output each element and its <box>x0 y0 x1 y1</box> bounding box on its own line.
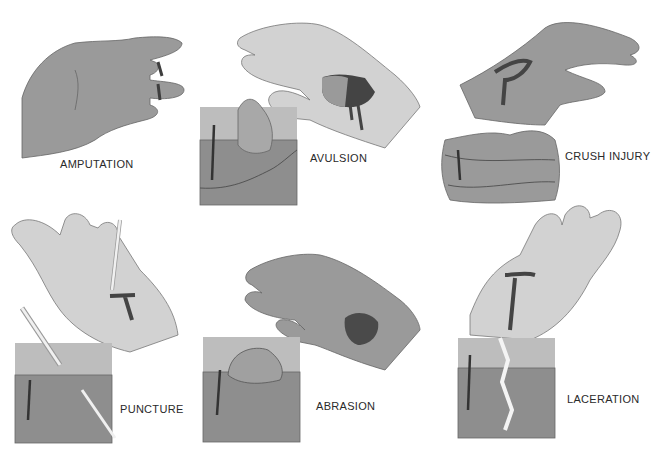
crush-injury-illustration <box>442 23 639 203</box>
label-crush-injury: CRUSH INJURY <box>565 150 650 162</box>
label-abrasion: ABRASION <box>316 400 375 412</box>
label-puncture: PUNCTURE <box>120 403 184 415</box>
label-avulsion: AVULSION <box>310 152 367 164</box>
label-laceration: LACERATION <box>567 393 639 405</box>
abrasion-illustration <box>203 254 420 442</box>
label-amputation: AMPUTATION <box>60 158 133 170</box>
amputation-hand-illustration <box>22 37 184 158</box>
avulsion-illustration <box>200 23 420 205</box>
wound-types-illustration <box>0 0 657 454</box>
